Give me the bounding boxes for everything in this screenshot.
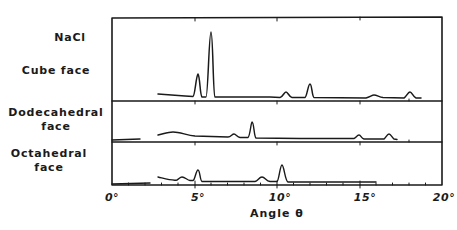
trace-cube-face [158,32,421,98]
x-axis-label: Angle θ [250,207,304,220]
x-tick-5: 5° [191,191,205,204]
x-axis-ticks [129,17,426,188]
x-tick-15: 15° [354,191,376,204]
x-tick-10: 10° [269,191,291,204]
trace-dodecahedral-face [112,122,397,140]
trace-octahedral-face [112,165,376,184]
diffraction-chart [0,0,457,230]
x-tick-20: 20° [433,191,455,204]
x-tick-0: 0° [105,191,119,204]
